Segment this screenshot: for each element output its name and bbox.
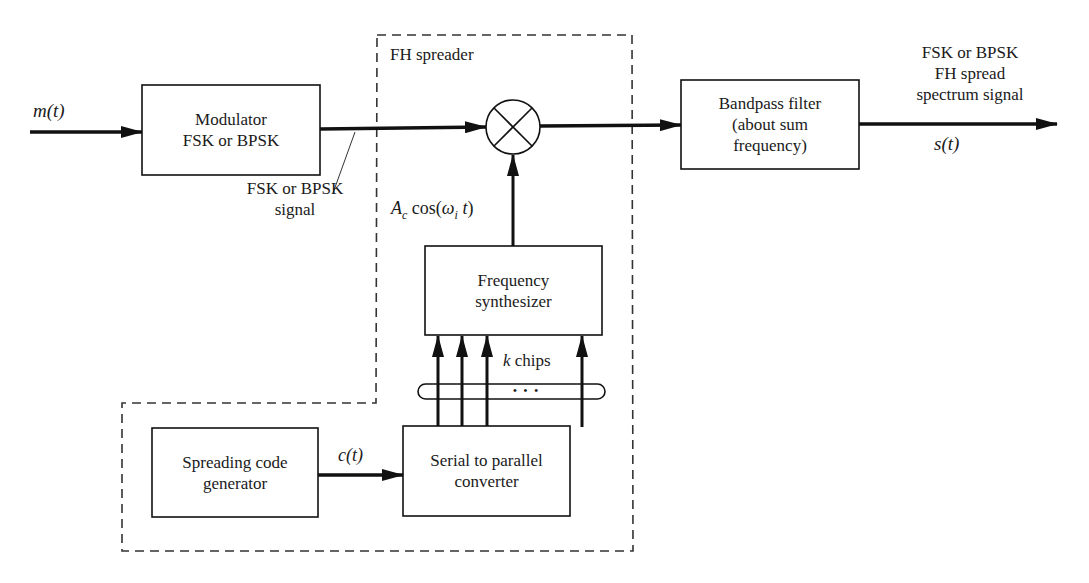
carrier-label: Ac cos(ωi t)	[391, 198, 473, 226]
input-signal-label: m(t)	[33, 100, 65, 121]
code-signal-label: c(t)	[338, 445, 363, 466]
frequency-synthesizer-label: Frequency synthesizer	[425, 246, 602, 335]
carrier-cos: cos(	[407, 198, 442, 218]
modulator-output-label: FSK or BPSK signal	[230, 178, 360, 220]
spreading-code-generator-label: Spreading code generator	[152, 428, 318, 517]
scg-line1: Spreading code	[182, 452, 287, 473]
modulator-output-label-line2: signal	[230, 199, 360, 220]
mixer-output-arrow	[540, 125, 681, 126]
bus-label: k chips	[503, 350, 551, 371]
synth-line1: Frequency	[478, 270, 550, 291]
s2p-line2: converter	[454, 471, 518, 492]
modulator-label-line1: Modulator	[195, 109, 267, 130]
output-title-line3: spectrum signal	[880, 84, 1060, 105]
carrier-close: )	[467, 198, 473, 218]
bpf-line2: (about sum	[732, 114, 808, 135]
s2p-line1: Serial to parallel	[430, 450, 542, 471]
bus-ellipsis: • • •	[513, 380, 540, 401]
mixer-icon	[486, 100, 540, 154]
carrier-t: t	[458, 198, 468, 218]
modulated-signal-arrow	[320, 127, 486, 129]
modulator-output-label-line1: FSK or BPSK	[230, 178, 360, 199]
output-title-line2: FH spread	[880, 63, 1060, 84]
bpf-line3: frequency)	[733, 135, 807, 156]
output-signal-label: s(t)	[934, 133, 959, 154]
output-title-label: FSK or BPSK FH spread spectrum signal	[880, 42, 1060, 105]
chip-bus-oval	[418, 384, 605, 399]
bpf-line1: Bandpass filter	[719, 93, 821, 114]
output-title-line1: FSK or BPSK	[880, 42, 1060, 63]
bus-label-k: k	[503, 351, 511, 370]
scg-line2: generator	[203, 473, 267, 494]
modulator-label-line2: FSK or BPSK	[183, 130, 279, 151]
bandpass-filter-label: Bandpass filter (about sum frequency)	[681, 80, 859, 169]
carrier-amplitude: A	[391, 198, 402, 218]
carrier-omega: ω	[442, 198, 455, 218]
modulator-label: Modulator FSK or BPSK	[142, 85, 320, 175]
serial-to-parallel-label: Serial to parallel converter	[403, 426, 570, 516]
bus-label-chips: chips	[511, 351, 551, 370]
synth-line2: synthesizer	[475, 291, 551, 312]
fh-spreader-label: FH spreader	[390, 44, 474, 65]
